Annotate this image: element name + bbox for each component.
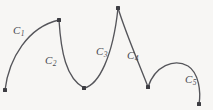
node-point-p3 xyxy=(116,6,120,10)
curve-label-c1-subscript: 1 xyxy=(21,29,25,38)
curve-label-c2-subscript: 2 xyxy=(53,59,57,68)
curve-figure: C1 C2 C3 C4 C5 xyxy=(0,0,213,110)
curve-segment-c4 xyxy=(118,8,148,87)
curve-label-c1-text: C xyxy=(13,24,20,36)
node-point-p4 xyxy=(146,85,150,89)
node-point-p5 xyxy=(197,102,201,106)
node-point-p1 xyxy=(57,18,61,22)
curve-label-c5: C5 xyxy=(185,74,196,87)
curve-label-c3-subscript: 3 xyxy=(104,50,108,59)
curve-label-c2: C2 xyxy=(45,55,56,68)
node-point-p0 xyxy=(3,88,7,92)
curve-label-c4: C4 xyxy=(127,50,138,63)
curve-label-c4-text: C xyxy=(127,49,134,61)
curve-label-c5-subscript: 5 xyxy=(193,78,197,87)
node-point-p2 xyxy=(82,86,86,90)
curve-label-c4-subscript: 4 xyxy=(135,54,139,63)
curve-label-c3-text: C xyxy=(96,45,103,57)
curve-segment-c2 xyxy=(59,20,84,88)
curve-label-c3: C3 xyxy=(96,46,107,59)
curve-label-c2-text: C xyxy=(45,54,52,66)
curve-label-c5-text: C xyxy=(185,73,192,85)
curve-label-c1: C1 xyxy=(13,25,24,38)
